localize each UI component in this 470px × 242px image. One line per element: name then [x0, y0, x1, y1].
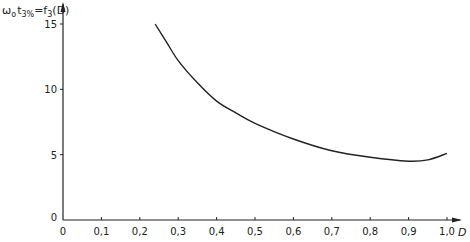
- x-tick-label: 0,9: [401, 226, 417, 237]
- y-tick-label: 10: [44, 84, 57, 95]
- x-axis-arrow-icon: [452, 218, 462, 223]
- y-axis-title: ωot3%=f3(D): [2, 4, 69, 19]
- x-tick-label: 0,3: [170, 226, 186, 237]
- y-tick-label: 5: [51, 150, 57, 161]
- y-tick-label: 15: [44, 19, 57, 30]
- x-tick-label: 0,6: [285, 226, 301, 237]
- x-tick-label: 0,2: [132, 226, 148, 237]
- x-tick-label: 0,8: [362, 226, 378, 237]
- y-tick-label: 0: [51, 212, 57, 223]
- x-tick-label: 0: [60, 226, 66, 237]
- x-tick-label: 0,7: [324, 226, 340, 237]
- x-tick-label: 0,1: [93, 226, 109, 237]
- x-tick-label: 0,5: [247, 226, 263, 237]
- x-axis-title: D: [458, 226, 466, 239]
- line-chart: 00,10,20,30,40,50,60,70,80,91,0051015 ωo…: [0, 0, 470, 242]
- x-tick-label: 1,0: [439, 226, 455, 237]
- ticks: 00,10,20,30,40,50,60,70,80,91,0051015: [44, 19, 455, 237]
- x-tick-label: 0,4: [209, 226, 225, 237]
- chart-container: 00,10,20,30,40,50,60,70,80,91,0051015 ωo…: [0, 0, 470, 242]
- series: [155, 24, 447, 161]
- axes: [61, 2, 463, 223]
- data-line: [155, 24, 447, 161]
